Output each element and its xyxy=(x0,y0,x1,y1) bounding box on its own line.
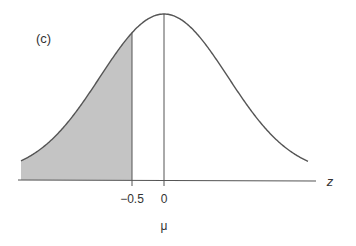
mu-label: μ xyxy=(161,219,168,233)
z-axis-label: z xyxy=(326,174,334,189)
tick-label-0: 0 xyxy=(161,192,168,206)
x-axis xyxy=(18,180,316,181)
panel-label: (c) xyxy=(36,31,51,46)
tick-label-neg05: −0.5 xyxy=(120,192,144,206)
normal-curve-chart: (c) −0.5 0 μ z xyxy=(0,0,356,246)
